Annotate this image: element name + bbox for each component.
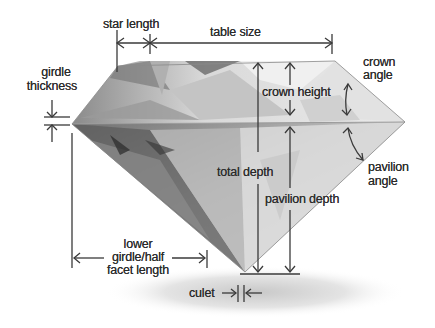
label-pavilion-depth: pavilion depth [265, 193, 339, 206]
label-crown-height: crown height [262, 86, 330, 99]
label-girdle-thickness-1: girdle [36, 66, 76, 79]
label-table-size: table size [210, 26, 261, 39]
label-pavilion-angle-1: pavilion [368, 161, 409, 174]
label-star-length: star length [103, 18, 159, 31]
label-total-depth: total depth [217, 166, 273, 179]
diamond-diagram: star length table size girdle thickness … [0, 0, 435, 328]
label-girdle-thickness-2: thickness [22, 80, 82, 93]
label-crown-angle-2: angle [363, 69, 393, 82]
label-lower-girdle-3: facet length [98, 264, 178, 277]
label-culet: culet [189, 287, 214, 300]
label-pavilion-angle-2: angle [368, 175, 398, 188]
